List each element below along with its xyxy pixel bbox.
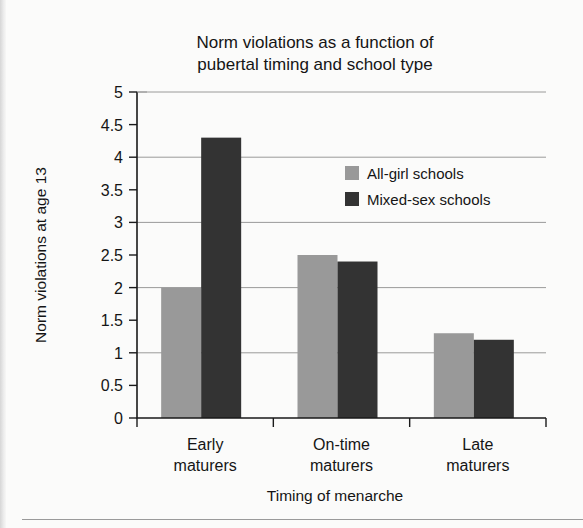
- y-tick-label: 3: [114, 214, 123, 231]
- bar: [161, 288, 201, 418]
- chart-title-line-2: pubertal timing and school type: [197, 55, 432, 74]
- legend-label: Mixed-sex schools: [367, 191, 490, 208]
- y-tick-label: 1.5: [101, 312, 123, 329]
- chart-title-line-1: Norm violations as a function of: [196, 33, 433, 52]
- y-tick-label: 0.5: [101, 377, 123, 394]
- x-category-label: maturers: [310, 457, 373, 474]
- y-tick-label: 1: [114, 345, 123, 362]
- y-tick-label: 2.5: [101, 247, 123, 264]
- chart-legend: All-girl schoolsMixed-sex schools: [345, 165, 490, 208]
- bar: [298, 255, 338, 418]
- y-tick-label: 0: [114, 410, 123, 427]
- plot-area: 00.511.522.533.544.55EarlymaturersOn-tim…: [101, 84, 546, 474]
- y-tick-label: 2: [114, 280, 123, 297]
- bar: [338, 262, 378, 418]
- legend-swatch: [345, 166, 359, 180]
- bar: [434, 333, 474, 418]
- x-axis-label: Timing of menarche: [267, 487, 403, 504]
- legend-label: All-girl schools: [367, 165, 464, 182]
- x-category-label: maturers: [446, 457, 509, 474]
- y-axis-label: Norm violations at age 13: [32, 167, 49, 343]
- x-category-label: Late: [462, 436, 493, 453]
- y-tick-label: 3.5: [101, 182, 123, 199]
- chart-svg: Norm violations as a function of puberta…: [0, 0, 583, 528]
- chart-title: Norm violations as a function of puberta…: [196, 33, 433, 74]
- bar: [201, 138, 241, 418]
- x-category-label: Early: [187, 436, 223, 453]
- figure-page: Norm violations as a function of puberta…: [0, 0, 583, 528]
- bar: [474, 340, 514, 418]
- x-category-label: maturers: [174, 457, 237, 474]
- page-bottom-rule: [22, 519, 583, 520]
- y-tick-label: 5: [114, 84, 123, 101]
- bar-chart: Norm violations as a function of puberta…: [0, 0, 583, 528]
- legend-swatch: [345, 192, 359, 206]
- y-tick-label: 4: [114, 149, 123, 166]
- y-tick-label: 4.5: [101, 117, 123, 134]
- x-category-label: On-time: [313, 436, 370, 453]
